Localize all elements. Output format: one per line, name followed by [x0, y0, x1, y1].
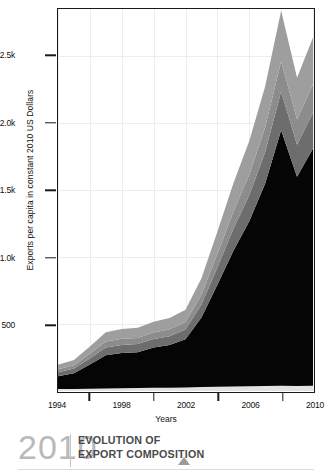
y-tick-mark — [45, 55, 56, 56]
triangle-up-icon — [178, 457, 190, 465]
y-tick-mark — [45, 190, 56, 191]
x-tick-label: 1994 — [27, 400, 87, 410]
y-axis-title: Exports per capita in constant 2010 US D… — [25, 55, 35, 305]
y-tick-mark — [45, 257, 56, 258]
stacked-area-plot — [58, 9, 313, 391]
x-tick-mark-minor — [218, 393, 219, 401]
x-tick-label: 1998 — [92, 400, 152, 410]
footer-caption: 2010 EVOLUTION OF EXPORT COMPOSITION — [0, 432, 332, 472]
y-tick-label: 2.0k — [0, 118, 15, 128]
y-tick-mark — [45, 325, 56, 326]
x-tick-mark-minor — [153, 393, 154, 401]
x-tick-mark-minor — [89, 393, 90, 401]
y-tick-mark — [45, 122, 56, 123]
plot-inner — [58, 9, 314, 392]
y-tick-label: 500 — [0, 320, 15, 330]
x-tick-label: 2002 — [156, 400, 216, 410]
x-tick-label: 2010 — [285, 400, 332, 410]
footer-divider — [70, 434, 71, 467]
x-tick-label: 2006 — [221, 400, 281, 410]
footer-title-line1: EVOLUTION OF — [78, 434, 204, 448]
y-tick-label: 2.5k — [0, 50, 15, 60]
gridline-vertical — [313, 9, 314, 392]
x-axis-title: Years — [0, 414, 332, 424]
x-tick-mark-minor — [282, 393, 283, 401]
y-tick-label: 1.5k — [0, 185, 15, 195]
chart-figure: Exports per capita in constant 2010 US D… — [0, 0, 332, 418]
plot-area — [57, 8, 315, 393]
y-tick-label: 1.0k — [0, 253, 15, 263]
footer-rule — [18, 469, 314, 470]
